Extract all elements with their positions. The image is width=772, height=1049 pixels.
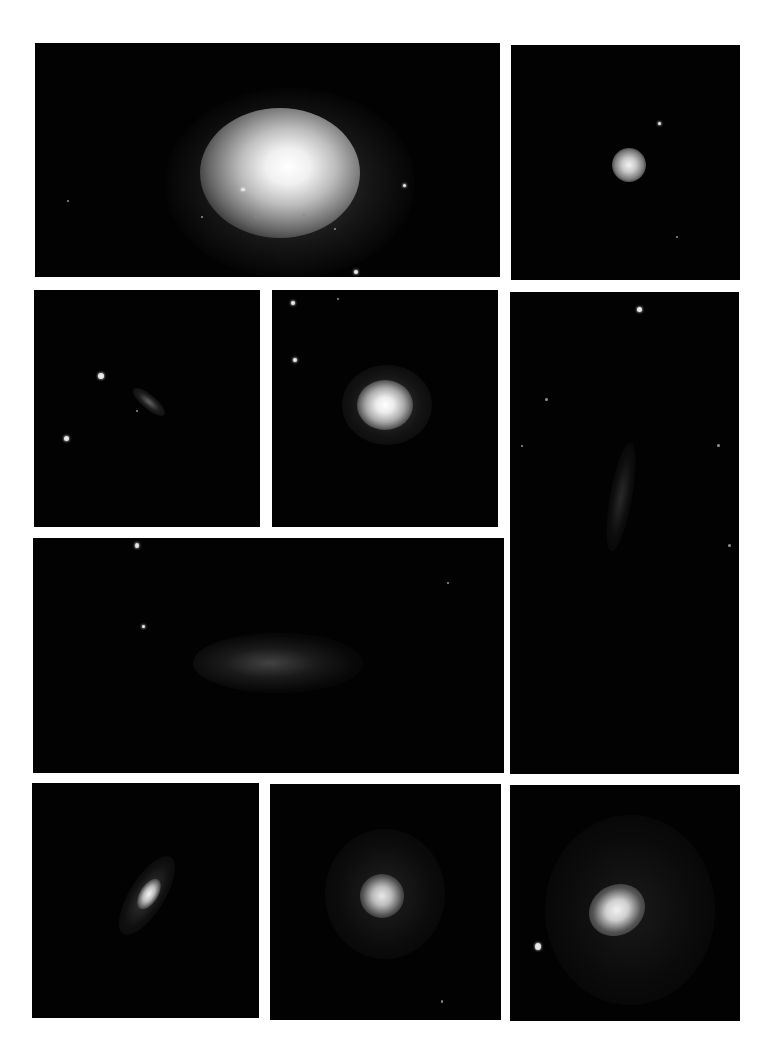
galaxy-panel-3: faint edge-on galaxy with field stars xyxy=(34,290,260,527)
star xyxy=(676,236,678,238)
star xyxy=(728,544,731,547)
star xyxy=(135,543,139,548)
star xyxy=(447,582,449,584)
star xyxy=(545,398,548,401)
galaxy-halo xyxy=(325,829,445,959)
star xyxy=(337,298,339,300)
galaxy-panel-9: galaxy with bright core and extended hal… xyxy=(510,785,740,1021)
galaxy-panel-8: round galaxy with diffuse halo xyxy=(270,784,501,1020)
galaxy-halo xyxy=(165,88,415,277)
galaxy-panel-1: large bright elliptical galaxy xyxy=(35,43,500,277)
galaxy-halo xyxy=(108,848,185,943)
galaxy-body xyxy=(360,874,404,918)
galaxy-body xyxy=(129,384,169,420)
galaxy-panel-2: small compact round galaxy xyxy=(511,45,740,280)
star xyxy=(136,410,138,412)
star xyxy=(291,301,295,305)
galaxy-body xyxy=(132,875,165,913)
star xyxy=(334,228,336,230)
galaxy-body xyxy=(357,380,413,430)
galaxy-halo xyxy=(342,365,432,445)
star xyxy=(255,216,257,218)
galaxy-body xyxy=(200,108,360,238)
star xyxy=(521,445,523,447)
star xyxy=(441,1000,443,1003)
star xyxy=(64,436,69,441)
galaxy-panel-7: inclined spiral galaxy xyxy=(32,783,259,1018)
star xyxy=(201,216,203,218)
galaxy-halo xyxy=(545,815,715,1005)
galaxy-panel-4: bright compact spiral galaxy xyxy=(272,290,498,527)
star xyxy=(658,122,661,125)
galaxy-body xyxy=(579,874,654,946)
star xyxy=(535,943,541,950)
star xyxy=(293,358,297,362)
star xyxy=(717,444,720,447)
star xyxy=(403,184,406,187)
star xyxy=(354,270,358,274)
star xyxy=(303,214,305,216)
galaxy-body xyxy=(193,633,363,693)
star xyxy=(67,200,69,202)
star xyxy=(98,373,104,379)
galaxy-body xyxy=(601,441,642,553)
star xyxy=(241,188,245,191)
galaxy-body xyxy=(612,148,646,182)
galaxy-panel-5: very faint diffuse elongated galaxy xyxy=(33,538,504,773)
star xyxy=(142,625,145,628)
star xyxy=(637,307,642,312)
galaxy-panel-6: faint vertical low surface brightness ga… xyxy=(510,292,739,774)
